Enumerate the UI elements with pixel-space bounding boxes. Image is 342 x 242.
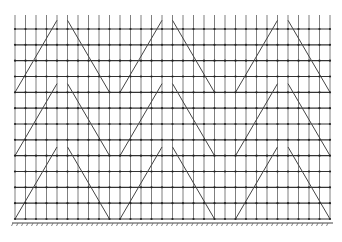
joint-node [318,170,320,172]
joint-node [140,75,142,77]
joint-node [35,155,37,157]
joint-node [234,28,236,30]
joint-node [171,28,173,30]
joint-node [129,107,131,109]
joint-node [119,91,121,93]
joint-node [182,170,184,172]
joint-node [234,139,236,141]
joint-node [14,28,16,30]
joint-node [150,218,152,220]
joint-node [150,139,152,141]
joint-node [213,44,215,46]
joint-node [182,139,184,141]
joint-node [87,60,89,62]
joint-node [297,60,299,62]
joint-node [45,123,47,125]
joint-node [45,107,47,109]
joint-node [224,123,226,125]
joint-node [224,155,226,157]
joint-node [161,44,163,46]
joint-node [318,75,320,77]
joint-node [287,202,289,204]
joint-node [66,60,68,62]
joint-node [297,107,299,109]
joint-node [287,218,289,220]
joint-node [182,28,184,30]
joint-node [56,75,58,77]
joint-node [98,218,100,220]
joint-node [329,75,331,77]
joint-node [329,28,331,30]
joint-node [182,186,184,188]
joint-node [14,44,16,46]
joint-node [255,155,257,157]
joint-node [119,123,121,125]
joint-node [276,123,278,125]
joint-node [161,218,163,220]
joint-node [318,28,320,30]
joint-node [255,218,257,220]
joint-node [35,28,37,30]
joint-node [87,123,89,125]
joint-node [297,218,299,220]
joint-node [192,28,194,30]
joint-node [329,123,331,125]
joint-node [119,218,121,220]
joint-node [318,44,320,46]
joint-node [224,186,226,188]
joint-node [87,170,89,172]
joint-node [66,155,68,157]
joint-node [171,123,173,125]
joint-node [308,155,310,157]
joint-node [245,75,247,77]
joint-node [150,170,152,172]
joint-node [329,218,331,220]
joint-node [255,60,257,62]
joint-node [45,155,47,157]
joint-node [45,75,47,77]
joint-node [129,75,131,77]
joint-node [182,123,184,125]
joint-node [213,28,215,30]
joint-node [308,107,310,109]
joint-node [224,75,226,77]
joint-node [318,123,320,125]
joint-node [203,170,205,172]
joint-node [119,60,121,62]
joint-node [14,186,16,188]
joint-node [245,123,247,125]
joint-node [171,170,173,172]
joint-node [98,44,100,46]
joint-node [213,186,215,188]
joint-node [24,91,26,93]
lattice-diagram [0,0,342,242]
joint-node [14,107,16,109]
joint-node [308,28,310,30]
joint-node [108,139,110,141]
joint-node [98,139,100,141]
joint-node [213,170,215,172]
joint-node [297,28,299,30]
joint-node [287,91,289,93]
joint-node [150,202,152,204]
joint-node [35,44,37,46]
joint-node [329,139,331,141]
joint-node [56,202,58,204]
joint-node [56,123,58,125]
joint-node [224,44,226,46]
joint-node [77,202,79,204]
joint-node [140,123,142,125]
joint-node [234,170,236,172]
joint-node [245,170,247,172]
joint-node [14,75,16,77]
joint-node [150,123,152,125]
joint-node [182,107,184,109]
joint-node [45,91,47,93]
joint-node [171,186,173,188]
joint-node [266,202,268,204]
joint-node [129,91,131,93]
joint-node [140,155,142,157]
joint-node [108,28,110,30]
joint-node [77,60,79,62]
joint-node [266,139,268,141]
